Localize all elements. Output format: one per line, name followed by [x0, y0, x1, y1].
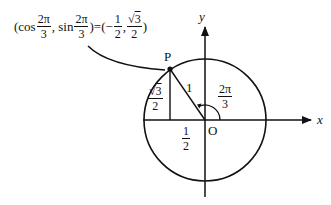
point-P-dot	[167, 66, 172, 71]
eq-comma: ,	[123, 19, 126, 35]
angle-label: 2π3	[218, 83, 232, 110]
leader-curve	[88, 46, 165, 70]
eq-equals: )=(−	[89, 19, 112, 35]
origin-label: O	[208, 124, 217, 137]
x-axis-label: x	[317, 113, 323, 126]
point-P-label: P	[164, 50, 171, 63]
eq-frac-y: √32	[127, 13, 142, 40]
radius-label: 1	[186, 81, 193, 94]
eq-frac-sin-arg: 2π3	[74, 13, 88, 40]
eq-frac-x: 12	[114, 13, 122, 40]
angle-arc	[199, 105, 221, 120]
coordinate-equation: (cos 2π3 , sin 2π3 )=(− 12 , √32 )	[14, 13, 147, 40]
eq-sin: , sin	[52, 19, 74, 35]
base-label: 12	[182, 125, 190, 152]
height-label: √32	[148, 85, 163, 112]
eq-close: )	[143, 19, 147, 35]
y-axis-label: y	[199, 10, 205, 23]
eq-frac-cos-arg: 2π3	[37, 13, 51, 40]
eq-open: (cos	[14, 19, 36, 35]
